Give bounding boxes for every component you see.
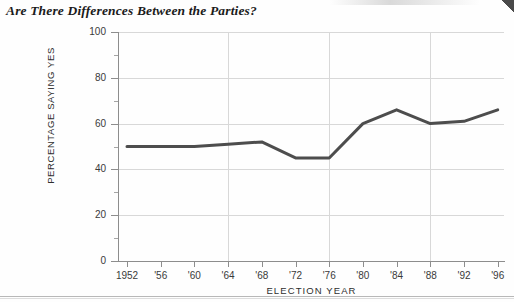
x-axis-tick [194, 261, 195, 267]
scan-smudge [330, 0, 480, 5]
y-axis-minor-tick [114, 101, 118, 102]
y-axis-tick-label-text: 20 [66, 209, 106, 220]
y-axis-tick-label: 40 [62, 163, 106, 175]
y-axis-tick-label-text: 0 [66, 255, 106, 266]
x-axis-tick [329, 261, 330, 267]
y-axis-minor-tick [114, 147, 118, 148]
y-axis-tick [111, 261, 118, 262]
chart-figure: Are There Differences Between the Partie… [0, 0, 514, 302]
y-axis-tick [111, 124, 118, 125]
y-axis-tick [111, 32, 118, 33]
x-axis-tick [161, 261, 162, 267]
page-bottom-rule-shadow [0, 298, 514, 299]
y-axis-minor-tick [114, 55, 118, 56]
y-axis-tick-label: 100 [62, 26, 106, 38]
y-axis-tick [111, 215, 118, 216]
y-axis-tick-label: 20 [62, 209, 106, 221]
y-axis-tick [111, 169, 118, 170]
y-axis-title: PERCENTAGE SAYING YES [45, 36, 56, 196]
y-axis-minor-tick [114, 238, 118, 239]
x-axis-tick [498, 261, 499, 267]
x-axis-tick [363, 261, 364, 267]
page-bottom-rule [0, 296, 514, 297]
x-axis-tick [228, 261, 229, 267]
y-axis-minor-tick [114, 192, 118, 193]
y-axis-tick-label: 0 [62, 255, 106, 267]
y-axis-tick-label-text: 100 [66, 26, 106, 37]
y-axis-tick-label: 80 [62, 72, 106, 84]
x-axis-tick [262, 261, 263, 267]
data-series-line [118, 32, 504, 261]
x-axis-title: ELECTION YEAR [118, 285, 505, 296]
y-axis-tick-label-text: 60 [66, 118, 106, 129]
x-axis-tick [430, 261, 431, 267]
page-title: Are There Differences Between the Partie… [6, 3, 257, 19]
x-axis-line [118, 261, 505, 262]
x-axis-tick [296, 261, 297, 267]
x-axis-tick [464, 261, 465, 267]
page-corner-artifact [500, 0, 514, 14]
y-axis-tick-label-text: 40 [66, 163, 106, 174]
x-axis-tick [127, 261, 128, 267]
x-axis-tick-label: '96 [478, 270, 514, 281]
series-polyline [127, 110, 498, 158]
y-axis-tick-label: 60 [62, 118, 106, 130]
x-axis-tick [397, 261, 398, 267]
y-axis-tick [111, 78, 118, 79]
y-axis-tick-label-text: 80 [66, 72, 106, 83]
